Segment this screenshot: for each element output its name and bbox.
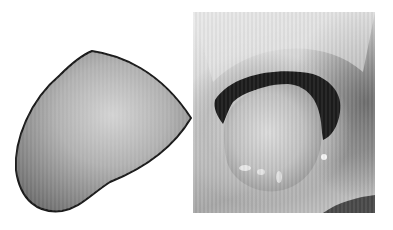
scan-texture	[193, 12, 375, 213]
tongue-illustration	[0, 0, 200, 230]
tongue-drawing-icon	[0, 0, 200, 230]
mouth-photograph	[193, 12, 375, 213]
